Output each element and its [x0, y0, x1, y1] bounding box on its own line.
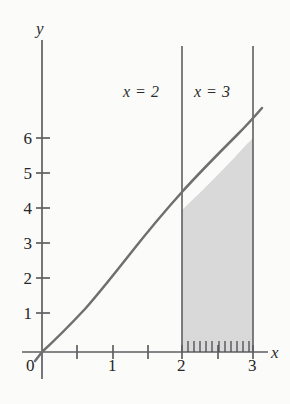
origin-tick-label: 0 — [26, 357, 35, 374]
y-tick-label-1: 1 — [16, 305, 32, 322]
shaded-area-region — [182, 138, 253, 352]
x-tick-label-1: 1 — [108, 357, 117, 374]
y-axis-label: y — [36, 20, 44, 37]
x-tick-label-2: 2 — [177, 357, 186, 374]
vertical-line-label-x3: x = 3 — [194, 84, 230, 100]
y-tick-label-2: 2 — [16, 270, 32, 287]
y-tick-label-5: 5 — [16, 165, 32, 182]
x-tick-label-3: 3 — [248, 357, 257, 374]
y-tick-label-4: 4 — [16, 200, 32, 217]
vertical-line-label-x2: x = 2 — [123, 84, 159, 100]
math-graph-figure — [0, 0, 290, 404]
x-axis-label: x — [271, 344, 279, 361]
y-tick-label-6: 6 — [16, 130, 32, 147]
y-tick-label-3: 3 — [16, 235, 32, 252]
y-axis-ticks — [36, 138, 50, 313]
